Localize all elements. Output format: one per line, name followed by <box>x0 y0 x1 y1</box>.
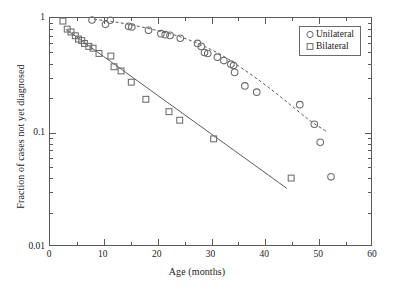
data-point-square <box>111 64 117 70</box>
y-tick-label: 1 <box>40 12 45 23</box>
data-point-square <box>128 79 134 85</box>
x-axis-title: Age (months) <box>0 266 394 277</box>
x-tick-label: 60 <box>367 249 377 260</box>
square-marker-icon <box>304 41 316 52</box>
legend-label-bilateral: Bilateral <box>316 41 349 52</box>
x-tick-label: 20 <box>152 249 162 260</box>
legend-label-unilateral: Unilateral <box>316 29 354 40</box>
data-point-circle <box>177 35 184 42</box>
fit-line-bilateral <box>66 29 287 188</box>
data-point-circle <box>328 174 335 181</box>
legend: Unilateral Bilateral <box>299 26 361 56</box>
legend-item-unilateral: Unilateral <box>304 29 354 40</box>
data-point-circle <box>231 69 238 76</box>
data-point-circle <box>221 57 228 64</box>
figure-scatter-plot: Fraction of cases not yet diagnosed Age … <box>0 0 394 293</box>
series-bilateral <box>60 18 294 188</box>
data-point-circle <box>296 101 303 108</box>
legend-item-bilateral: Bilateral <box>304 41 354 52</box>
y-axis-title: Fraction of cases not yet diagnosed <box>15 37 26 237</box>
x-tick-label: 40 <box>260 249 270 260</box>
data-point-circle <box>242 83 249 90</box>
x-tick-label: 10 <box>98 249 108 260</box>
data-point-square <box>60 18 66 24</box>
data-point-circle <box>89 17 96 24</box>
data-point-square <box>166 109 172 115</box>
x-tick-label: 50 <box>313 249 323 260</box>
y-tick-label: 0.1 <box>33 126 45 137</box>
data-point-square <box>177 117 183 123</box>
data-point-square <box>108 53 114 59</box>
x-tick-label: 30 <box>206 249 216 260</box>
y-tick-label: 0.01 <box>28 241 45 252</box>
data-point-circle <box>107 17 114 24</box>
data-point-circle <box>214 54 221 61</box>
circle-marker-icon <box>304 29 316 40</box>
data-point-circle <box>253 89 260 96</box>
data-point-circle <box>158 30 165 37</box>
data-point-circle <box>317 139 324 146</box>
data-point-square <box>143 96 149 102</box>
data-point-circle <box>167 32 174 39</box>
x-tick-label: 0 <box>47 249 52 260</box>
data-point-circle <box>311 121 318 128</box>
series-unilateral <box>89 17 335 180</box>
fit-line-unilateral <box>94 19 327 132</box>
data-point-square <box>288 175 294 181</box>
